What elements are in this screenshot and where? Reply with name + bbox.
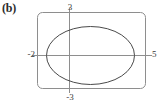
ymax-tick-label: 3 — [63, 2, 77, 12]
viewing-window-frame — [38, 13, 146, 89]
ymin-tick-label: -3 — [61, 92, 79, 102]
xmin-tick-label: -2 — [21, 49, 35, 59]
figure-screenshot: (b) 3 -3 -2 5 — [0, 0, 164, 106]
plot-area: 3 -3 -2 5 — [0, 0, 164, 106]
xmax-tick-label: 5 — [152, 49, 164, 59]
